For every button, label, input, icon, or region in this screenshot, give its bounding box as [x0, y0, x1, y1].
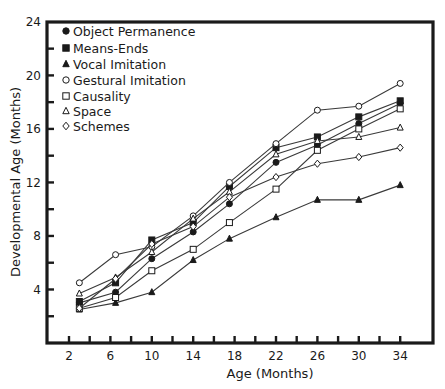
legend-label: Means-Ends — [73, 41, 148, 56]
legend-item-schemes: Schemes — [63, 119, 130, 134]
legend-label: Schemes — [73, 119, 130, 134]
legend-item-causality: Causality — [63, 89, 132, 104]
series-vocal-imitation — [76, 182, 403, 312]
data-point-causality — [149, 268, 155, 274]
data-point-gestural-imitation — [76, 280, 82, 286]
data-point-causality — [273, 186, 279, 192]
data-point-vocal-imitation — [149, 289, 155, 295]
x-tick-label: 30 — [351, 349, 366, 363]
y-tick-label: 16 — [26, 122, 41, 136]
legend-label: Causality — [73, 89, 131, 104]
y-tick-label: 8 — [33, 229, 41, 243]
data-point-gestural-imitation — [314, 107, 320, 113]
data-point-gestural-imitation — [356, 103, 362, 109]
series-causality — [76, 106, 403, 311]
data-point-causality — [356, 126, 362, 132]
x-tick-label: 6 — [107, 349, 115, 363]
data-point-means-ends — [356, 114, 362, 120]
data-point-causality — [314, 147, 320, 153]
data-point-vocal-imitation — [190, 257, 196, 263]
y-tick-label: 4 — [33, 283, 41, 297]
x-tick-label: 2 — [65, 349, 73, 363]
series-line-schemes — [79, 148, 400, 309]
series-lines — [76, 80, 403, 312]
x-axis-label: Age (Months) — [227, 366, 314, 381]
data-point-causality — [113, 295, 119, 301]
legend-marker-object-permanence — [63, 28, 69, 34]
data-point-gestural-imitation — [273, 141, 279, 147]
y-tick-label: 12 — [26, 176, 41, 190]
data-point-space — [397, 124, 403, 130]
data-point-gestural-imitation — [226, 179, 232, 185]
data-point-causality — [397, 106, 403, 112]
data-point-schemes — [314, 160, 320, 167]
legend-item-means-ends: Means-Ends — [63, 41, 149, 56]
x-tick-label: 18 — [227, 349, 242, 363]
series-line-vocal-imitation — [79, 185, 400, 309]
legend-marker-vocal-imitation — [63, 60, 69, 66]
x-tick-label: 14 — [186, 349, 201, 363]
legend-marker-space — [63, 107, 69, 113]
legend-marker-gestural-imitation — [63, 77, 69, 83]
data-point-schemes — [356, 153, 362, 160]
legend-label: Object Permanence — [73, 24, 196, 39]
legend-marker-means-ends — [63, 45, 69, 51]
series-line-space — [79, 128, 400, 294]
legend-marker-schemes — [63, 122, 69, 130]
data-point-schemes — [397, 144, 403, 151]
legend-label: Space — [73, 104, 111, 119]
data-point-object-permanence — [273, 159, 279, 165]
legend-item-space: Space — [63, 104, 112, 119]
y-tick-label: 24 — [26, 15, 41, 29]
data-point-schemes — [273, 173, 279, 180]
legend-label: Vocal Imitation — [73, 57, 166, 72]
x-tick-label: 34 — [393, 349, 408, 363]
data-point-means-ends — [397, 98, 403, 104]
x-tick-label: 26 — [310, 349, 325, 363]
data-point-causality — [226, 220, 232, 226]
legend: Object PermanenceMeans-EndsVocal Imitati… — [63, 24, 196, 134]
legend-item-gestural-imitation: Gestural Imitation — [63, 73, 186, 88]
legend-item-object-permanence: Object Permanence — [63, 24, 196, 39]
y-tick-label: 20 — [26, 69, 41, 83]
series-schemes — [76, 144, 403, 312]
data-point-object-permanence — [226, 201, 232, 207]
data-point-means-ends — [76, 299, 82, 305]
data-point-gestural-imitation — [397, 80, 403, 86]
legend-marker-causality — [63, 93, 69, 99]
x-tick-label: 10 — [144, 349, 159, 363]
legend-item-vocal-imitation: Vocal Imitation — [63, 57, 166, 72]
series-space — [76, 124, 403, 296]
data-point-gestural-imitation — [113, 252, 119, 258]
data-point-causality — [190, 246, 196, 252]
chart: 26101418222630344812162024 Object Perman… — [0, 0, 445, 389]
series-line-causality — [79, 109, 400, 308]
x-tick-label: 22 — [268, 349, 283, 363]
y-axis-label: Developmental Age (Months) — [8, 87, 23, 277]
legend-label: Gestural Imitation — [73, 73, 186, 88]
data-point-object-permanence — [149, 256, 155, 262]
data-point-vocal-imitation — [397, 182, 403, 188]
